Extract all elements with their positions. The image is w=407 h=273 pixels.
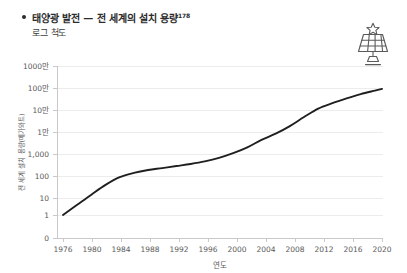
x-tick-label: 1988 (140, 245, 159, 254)
y-tick-label: 10 (39, 194, 49, 203)
plot-area (57, 66, 383, 238)
y-tick-marks (53, 66, 57, 238)
y-tick-label: 1000만 (23, 62, 49, 71)
x-tick-label: 1980 (82, 245, 101, 254)
x-tick-labels: 1976 1980 1984 1988 1992 1996 2000 2004 … (53, 245, 391, 254)
x-tick-label: 2000 (227, 245, 246, 254)
x-tick-label: 2004 (256, 245, 275, 254)
line-chart: 1000만 100만 10만 1만 1,000 100 10 1 0 전 세계 … (0, 0, 407, 273)
y-tick-labels: 1000만 100만 10만 1만 1,000 100 10 1 0 (23, 62, 49, 243)
x-tick-marks (63, 238, 382, 242)
x-axis-title: 연도 (213, 261, 227, 270)
x-tick-label: 1984 (111, 245, 130, 254)
x-tick-label: 2012 (314, 245, 333, 254)
y-tick-label: 1만 (37, 128, 49, 137)
x-tick-label: 1976 (53, 245, 72, 254)
x-tick-label: 2020 (372, 245, 391, 254)
x-tick-label: 2016 (343, 245, 362, 254)
y-tick-label: 0 (44, 234, 49, 243)
x-tick-label: 1996 (198, 245, 217, 254)
x-tick-label: 1992 (169, 245, 188, 254)
y-tick-label: 100만 (28, 84, 49, 93)
x-tick-label: 2008 (285, 245, 304, 254)
y-tick-label: 10만 (32, 106, 49, 115)
y-tick-label: 1,000 (28, 150, 50, 159)
y-tick-label: 1 (44, 211, 49, 220)
y-tick-label: 100 (35, 172, 50, 181)
y-axis-title: 전 세계 설치 용량(메가와트) (17, 113, 26, 190)
